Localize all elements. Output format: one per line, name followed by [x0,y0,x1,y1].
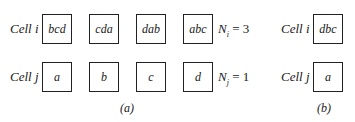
state-box: bcd [42,14,72,44]
cell-j-label: Cell j [10,69,39,85]
state-box: dab [136,14,166,44]
cell-j-label-b: Cell j [281,69,310,85]
state-box: cda [89,14,119,44]
cell-i-label: Cell i [10,21,39,37]
count-var: N [218,69,227,84]
count-var: N [218,21,227,36]
count-value: = 1 [229,69,249,84]
state-box: d [183,62,213,92]
caption-b: (b) [317,101,331,116]
state-box: dbc [313,14,343,44]
count-nj: Nj = 1 [218,69,249,87]
caption-a: (a) [120,101,134,116]
count-value: = 3 [229,21,249,36]
state-box: a [313,62,343,92]
state-box: b [89,62,119,92]
state-box: c [136,62,166,92]
cell-i-label-b: Cell i [281,21,310,37]
count-ni: Ni = 3 [218,21,249,39]
state-box: a [42,62,72,92]
state-box: abc [183,14,213,44]
